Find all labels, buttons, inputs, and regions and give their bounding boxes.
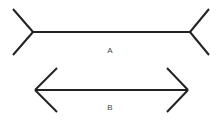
figure-b-bottom-left-fin bbox=[35, 90, 57, 112]
illusion-figure-canvas: A ) ===== --> B bbox=[0, 0, 219, 127]
illusion-svg-root: A ) ===== --> B bbox=[0, 0, 219, 127]
figure-a-bottom-right-fin bbox=[190, 32, 209, 55]
figure-b-label: B bbox=[107, 103, 113, 112]
figure-b-top-right-fin bbox=[167, 68, 188, 90]
figure-a-group: A bbox=[13, 9, 209, 55]
figure-b-top-left-fin bbox=[35, 68, 57, 90]
figure-b-group: B bbox=[35, 68, 188, 112]
figure-b-bottom-right-fin bbox=[167, 90, 188, 112]
figure-a-bottom-left-fin bbox=[13, 32, 33, 55]
figure-a-top-left-fin bbox=[13, 9, 33, 32]
figure-a-label: A bbox=[107, 46, 113, 55]
figure-a-top-right-fin bbox=[190, 9, 209, 32]
